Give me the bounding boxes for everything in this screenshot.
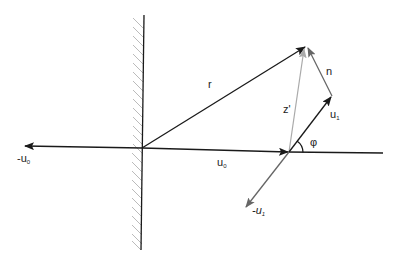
label-phi: φ [310, 136, 317, 148]
wall-line [141, 15, 144, 250]
neg-u0-vector [25, 146, 142, 148]
neg-u1-vector [246, 152, 289, 207]
phi-angle-arc [297, 141, 303, 153]
label-neg-u0: -u0 [17, 152, 31, 165]
u0-vector [142, 148, 288, 152]
vector-diagram: r n z' u1 u0 -u0 -u1 φ [0, 0, 399, 269]
z-prime-vector [289, 49, 304, 152]
label-r: r [208, 78, 212, 90]
label-n: n [326, 65, 332, 77]
label-z-prime: z' [283, 103, 291, 115]
baseline-extension [288, 152, 383, 153]
label-u1: u1 [330, 108, 340, 121]
label-neg-u1: -u1 [252, 204, 265, 217]
r-vector [142, 47, 305, 148]
label-u0: u0 [217, 156, 227, 169]
